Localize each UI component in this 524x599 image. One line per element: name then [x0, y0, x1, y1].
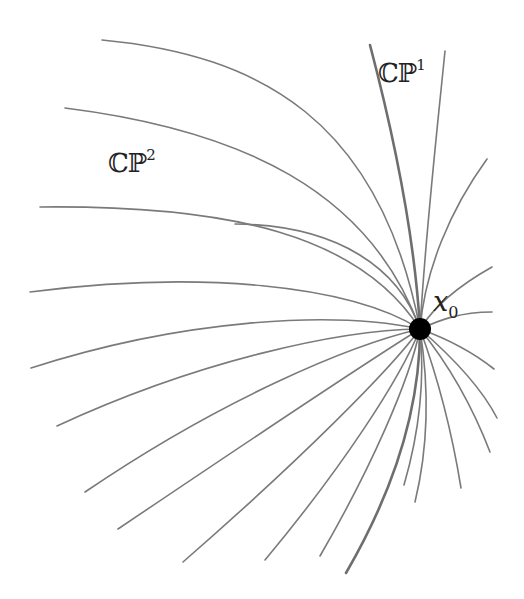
line-curve: [320, 329, 420, 556]
label-cp2-sup: 2: [146, 146, 156, 164]
line-curve: [183, 329, 420, 562]
line-curve: [415, 329, 426, 502]
label-x0-main: x: [433, 286, 448, 317]
label-cp1-main: ℂℙ: [378, 58, 416, 88]
line-curve: [57, 329, 420, 426]
line-curve: [65, 108, 420, 329]
line-curve: [85, 329, 420, 492]
line-cp1-curve: [346, 329, 420, 573]
label-cp1-sup: 1: [416, 56, 426, 74]
line-curve: [118, 329, 420, 529]
base-point-dot: [409, 318, 431, 340]
line-curve: [420, 329, 497, 418]
label-x0: x0: [433, 286, 458, 317]
curve-family: [30, 40, 497, 573]
label-cp2-main: ℂℙ: [108, 148, 146, 178]
line-curve: [235, 224, 420, 329]
line-curve: [40, 207, 420, 329]
line-curve: [31, 320, 420, 368]
line-curve: [265, 329, 420, 560]
label-cp1: ℂℙ1: [378, 58, 426, 88]
diagram-canvas: ℂℙ1 ℂℙ2 x0: [0, 0, 524, 599]
label-cp2: ℂℙ2: [108, 148, 156, 178]
label-x0-sub: 0: [448, 303, 458, 322]
